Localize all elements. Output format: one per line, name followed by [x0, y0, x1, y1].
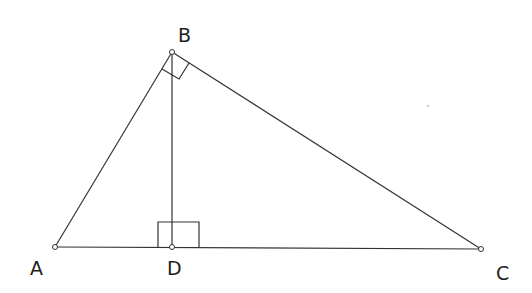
point-b [170, 50, 175, 55]
segment-ac [55, 247, 481, 249]
label-a: A [30, 259, 43, 278]
segment-ab [55, 52, 172, 247]
right-angle-marker-b [162, 63, 189, 79]
segment-bc [172, 52, 481, 249]
point-d [170, 245, 175, 250]
label-d: D [167, 259, 182, 278]
label-c: C [496, 264, 509, 283]
triangle-diagram: A B C D [0, 0, 532, 293]
point-a [53, 245, 58, 250]
right-angle-marker-d [158, 222, 199, 247]
stray-dot [427, 105, 429, 107]
point-c [479, 247, 484, 252]
label-b: B [178, 26, 191, 45]
diagram-canvas [0, 0, 532, 293]
